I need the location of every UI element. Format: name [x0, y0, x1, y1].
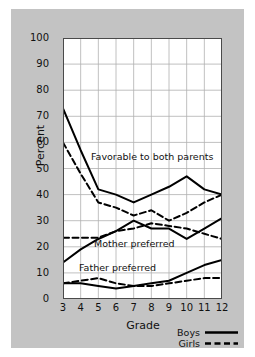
annotation-father-preferred: Father preferred	[79, 262, 156, 273]
chart-figure: Percent 0102030405060708090100 345678910…	[0, 0, 255, 357]
y-tick-20: 20	[19, 241, 49, 252]
x-tick-12: 12	[212, 302, 232, 313]
plot-area	[63, 38, 222, 299]
y-tick-60: 60	[19, 136, 49, 147]
y-tick-30: 30	[19, 215, 49, 226]
annotation-mother-preferred: Mother preferred	[94, 238, 175, 249]
chart-panel: Percent 0102030405060708090100 345678910…	[11, 9, 244, 348]
y-tick-40: 40	[19, 189, 49, 200]
legend-item-boys: Boys	[174, 327, 238, 338]
legend-label: Boys	[174, 327, 200, 338]
legend-swatch-solid	[205, 328, 238, 337]
legend-label: Girls	[174, 338, 200, 349]
legend-item-girls: Girls	[174, 338, 238, 349]
y-tick-100: 100	[19, 32, 49, 43]
series-line-3	[63, 223, 222, 239]
chart-legend: BoysGirls	[174, 327, 238, 349]
annotation-favorable-both-parents: Favorable to both parents	[91, 151, 213, 162]
y-tick-50: 50	[19, 163, 49, 174]
y-tick-80: 80	[19, 84, 49, 95]
y-tick-70: 70	[19, 110, 49, 121]
gridlines	[63, 38, 222, 299]
plot-svg	[63, 38, 222, 299]
legend-swatch-dashed	[205, 339, 238, 348]
y-tick-90: 90	[19, 58, 49, 69]
y-tick-10: 10	[19, 267, 49, 278]
y-tick-0: 0	[19, 293, 49, 304]
